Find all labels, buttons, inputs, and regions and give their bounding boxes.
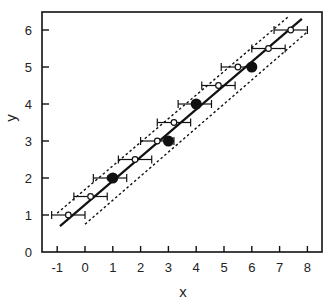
fitted-point-marker (216, 83, 222, 89)
x-tick-label: 3 (165, 260, 172, 275)
scatter-plot: -1012345678 0123456 x y (0, 0, 330, 303)
x-tick-label: 5 (220, 260, 227, 275)
x-tick-label: 7 (276, 260, 283, 275)
x-axis-ticks: -1012345678 (51, 246, 311, 275)
y-tick-label: 3 (25, 134, 32, 149)
x-tick-label: 8 (304, 260, 311, 275)
fitted-point-marker (266, 46, 272, 52)
fitted-point-marker (171, 120, 177, 126)
observed-point-marker (163, 136, 174, 147)
fitted-point-marker (88, 194, 94, 200)
fitted-point-marker (288, 27, 294, 33)
lower-confidence-band (85, 32, 307, 224)
observed-point-marker (107, 173, 118, 184)
upper-confidence-band (57, 17, 288, 213)
fitted-point-marker (66, 212, 72, 218)
x-tick-label: 6 (248, 260, 255, 275)
fitted-point-marker (154, 138, 160, 144)
x-tick-label: -1 (51, 260, 63, 275)
y-axis-label: y (2, 114, 19, 122)
x-error-bars (52, 26, 308, 219)
y-tick-label: 0 (25, 245, 32, 260)
observed-point-marker (246, 62, 257, 73)
y-tick-label: 5 (25, 60, 32, 75)
x-tick-label: 4 (193, 260, 200, 275)
x-tick-label: 0 (81, 260, 88, 275)
y-tick-label: 6 (25, 23, 32, 38)
y-tick-label: 1 (25, 208, 32, 223)
observed-point-marker (191, 99, 202, 110)
y-axis-ticks: 0123456 (25, 23, 49, 260)
x-tick-label: 1 (109, 260, 116, 275)
fitted-point-marker (132, 157, 138, 163)
y-tick-label: 2 (25, 171, 32, 186)
y-tick-label: 4 (25, 97, 32, 112)
x-axis-label: x (179, 283, 187, 300)
fitted-point-marker (235, 64, 241, 70)
x-tick-label: 2 (137, 260, 144, 275)
